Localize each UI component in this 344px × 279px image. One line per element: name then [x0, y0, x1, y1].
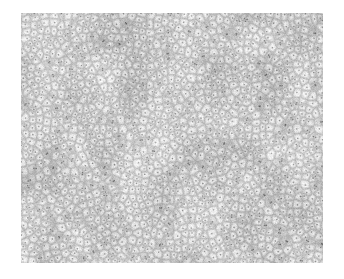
image-canvas	[0, 0, 344, 279]
micrograph-plate	[21, 13, 323, 263]
micrograph-texture	[21, 13, 323, 263]
